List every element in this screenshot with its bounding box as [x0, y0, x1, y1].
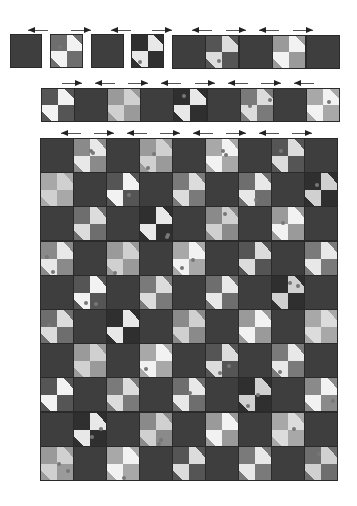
block-quadrant-bl	[74, 224, 90, 241]
bowtie-block	[271, 412, 305, 447]
block-quadrant-tr	[189, 447, 205, 464]
block-quadrant-br	[190, 105, 206, 121]
bowtie-block	[139, 343, 173, 378]
dark-solid-block	[205, 309, 239, 344]
dark-solid-block	[73, 446, 107, 481]
block-quadrant-br	[58, 105, 74, 121]
block-quadrant-bl	[74, 361, 90, 378]
block-quadrant-br	[222, 361, 238, 378]
block-quadrant-tr	[123, 173, 139, 190]
block-quadrant-br	[123, 190, 139, 207]
dark-solid-block	[304, 343, 338, 378]
pressing-arrow-left-icon	[259, 27, 279, 33]
block-quadrant-bl	[108, 105, 124, 121]
block-quadrant-br	[57, 395, 73, 412]
block-quadrant-tl	[107, 447, 123, 464]
block-quadrant-tr	[57, 447, 73, 464]
block-quadrant-tr	[90, 344, 106, 361]
block-quadrant-tr	[321, 310, 337, 327]
dark-solid-block	[172, 275, 206, 310]
block-quadrant-tr	[57, 242, 73, 259]
block-quadrant-tl	[74, 139, 90, 156]
block-quadrant-br	[222, 430, 238, 447]
block-quadrant-bl	[239, 464, 255, 481]
block-quadrant-br	[90, 361, 106, 378]
block-quadrant-tr	[90, 276, 106, 293]
block-quadrant-bl	[173, 327, 189, 344]
dark-solid-block	[40, 412, 74, 447]
block-quadrant-tr	[288, 344, 304, 361]
block-quadrant-tl	[241, 89, 257, 105]
bowtie-block	[106, 241, 140, 276]
dark-solid-block	[271, 446, 305, 481]
block-quadrant-tr	[123, 310, 139, 327]
dark-solid-block	[172, 35, 206, 69]
fabric-dot	[191, 258, 195, 262]
block-quadrant-tl	[239, 310, 255, 327]
dark-solid-block	[172, 138, 206, 173]
pressing-arrow-left-icon	[259, 130, 279, 136]
block-quadrant-tl	[140, 207, 156, 224]
block-quadrant-bl	[305, 190, 321, 207]
pressing-arrow-left-icon	[28, 27, 48, 33]
block-quadrant-bl	[272, 361, 288, 378]
block-quadrant-tr	[124, 89, 140, 105]
dark-solid-block	[106, 206, 140, 241]
block-quadrant-br	[288, 293, 304, 310]
fabric-dot	[327, 100, 331, 104]
block-quadrant-br	[156, 156, 172, 173]
block-quadrant-tl	[206, 344, 222, 361]
block-quadrant-bl	[51, 51, 67, 67]
bowtie-block	[272, 35, 306, 69]
block-quadrant-br	[321, 327, 337, 344]
block-quadrant-br	[90, 156, 106, 173]
dark-solid-block	[238, 138, 272, 173]
block-quadrant-tr	[156, 276, 172, 293]
pressing-arrow-right-icon	[293, 27, 313, 33]
dark-solid-block	[304, 138, 338, 173]
block-quadrant-tr	[58, 89, 74, 105]
dark-solid-block	[172, 412, 206, 447]
block-quadrant-tl	[272, 207, 288, 224]
block-quadrant-tr	[123, 378, 139, 395]
block-quadrant-tl	[107, 310, 123, 327]
pressing-arrow-right-icon	[195, 80, 215, 86]
fabric-dot	[166, 233, 170, 237]
bowtie-block	[271, 138, 305, 173]
block-quadrant-bl	[239, 327, 255, 344]
block-quadrant-bl	[272, 224, 288, 241]
block-quadrant-tl	[173, 242, 189, 259]
dark-solid-block	[106, 412, 140, 447]
block-quadrant-br	[156, 293, 172, 310]
bowtie-block	[73, 412, 107, 447]
block-quadrant-br	[222, 293, 238, 310]
block-quadrant-tl	[307, 89, 323, 105]
fabric-dot	[90, 435, 94, 439]
block-quadrant-tr	[222, 413, 238, 430]
bowtie-block	[50, 34, 83, 68]
block-quadrant-br	[222, 156, 238, 173]
bowtie-block	[40, 377, 74, 412]
block-quadrant-br	[189, 327, 205, 344]
bowtie-block	[238, 241, 272, 276]
dark-solid-block	[139, 172, 173, 207]
block-quadrant-br	[321, 259, 337, 276]
dark-solid-block	[73, 309, 107, 344]
bowtie-block	[73, 206, 107, 241]
pressing-arrow-left-icon	[95, 80, 115, 86]
block-quadrant-tl	[239, 242, 255, 259]
pressing-arrow-left-icon	[192, 27, 212, 33]
bowtie-block	[41, 88, 75, 122]
block-quadrant-bl	[272, 156, 288, 173]
block-quadrant-tr	[156, 207, 172, 224]
block-quadrant-bl	[239, 190, 255, 207]
block-quadrant-tr	[189, 173, 205, 190]
block-quadrant-tr	[288, 413, 304, 430]
dark-solid-block	[271, 309, 305, 344]
bowtie-block	[205, 35, 239, 69]
block-quadrant-tl	[140, 344, 156, 361]
dark-solid-block	[205, 446, 239, 481]
bowtie-block	[139, 206, 173, 241]
block-quadrant-tl	[173, 447, 189, 464]
block-quadrant-tr	[255, 447, 271, 464]
